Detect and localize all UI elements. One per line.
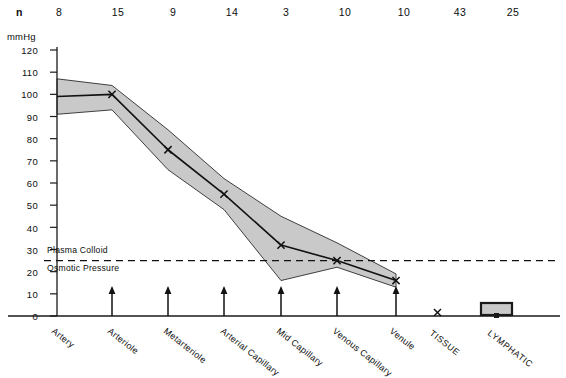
- n-value-metarteriole: 9: [170, 6, 176, 18]
- n-value-artery: 8: [56, 6, 62, 18]
- n-row-label: n: [16, 6, 23, 18]
- y-tick-30: 30: [0, 245, 38, 256]
- x-label-venous-capillary: Venous Capillary: [331, 326, 394, 378]
- n-value-venous-capillary: 10: [339, 6, 351, 18]
- x-label-mid-capillary: Mid Capillary: [275, 326, 325, 368]
- y-tick-120: 120: [0, 45, 38, 56]
- x-label-metarteriole: Metarteriole: [162, 326, 208, 365]
- range-band: [57, 79, 396, 287]
- y-tick-50: 50: [0, 200, 38, 211]
- y-tick-70: 70: [0, 156, 38, 167]
- lymphatic-marker: [481, 303, 512, 318]
- y-tick-90: 90: [0, 112, 38, 123]
- x-label-tissue: TISSUE: [428, 328, 462, 358]
- y-tick-80: 80: [0, 134, 38, 145]
- tissue-marker: [434, 309, 441, 316]
- x-label-arterial-capillary: Arterial Capillary: [219, 326, 281, 378]
- x-label-venule: Venule: [388, 326, 417, 352]
- x-label-artery: Artery: [50, 326, 76, 350]
- n-value-mid-capillary: 3: [283, 6, 289, 18]
- y-tick-10: 10: [0, 289, 38, 300]
- y-tick-110: 110: [0, 67, 38, 78]
- n-value-venule: 10: [398, 6, 410, 18]
- n-value-arterial-capillary: 14: [226, 6, 238, 18]
- plasma-colloid-label-line1: Plasma Colloid: [47, 245, 108, 255]
- mean-pressure-line: [57, 94, 396, 280]
- data-point-markers: [108, 91, 399, 284]
- x-axis-flow-arrows: [109, 286, 400, 316]
- y-axis-unit-label: mmHg: [7, 31, 36, 42]
- y-tick-60: 60: [0, 178, 38, 189]
- x-label-arteriole: Arteriole: [106, 326, 141, 356]
- n-value-tissue: 43: [454, 6, 466, 18]
- x-label-lymphatic: LYMPHATIC: [486, 328, 535, 369]
- y-tick-100: 100: [0, 89, 38, 100]
- y-tick-20: 20: [0, 267, 38, 278]
- plasma-colloid-label-line2: Osmotic Pressure: [47, 263, 119, 273]
- n-value-arteriole: 15: [112, 6, 124, 18]
- n-value-lymphatic: 25: [507, 6, 519, 18]
- y-axis-ticks: [50, 50, 57, 316]
- y-tick-0: 0: [0, 311, 38, 322]
- y-tick-40: 40: [0, 223, 38, 234]
